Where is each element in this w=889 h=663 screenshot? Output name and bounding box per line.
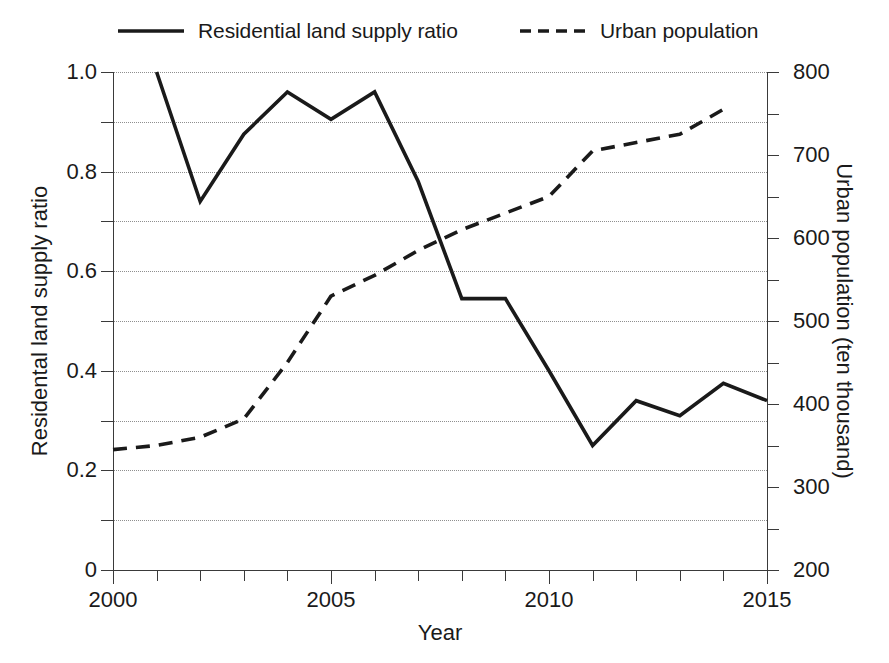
x-axis-tick-label: 2010: [525, 587, 574, 613]
y-axis-right-tick: [767, 155, 779, 156]
series-line-urban-population: [113, 109, 723, 449]
y-axis-right-tick: [767, 280, 779, 281]
y-axis-left-tick-label: 0.2: [66, 457, 97, 483]
y-axis-right-tick: [767, 570, 779, 571]
solid-line-swatch: [118, 24, 184, 38]
y-axis-left-tick-label: 0.8: [66, 159, 97, 185]
y-axis-left-tick: [101, 321, 113, 322]
series-line-residential-land-supply-ratio: [157, 72, 767, 446]
legend-label-residential-land-supply-ratio: Residential land supply ratio: [198, 18, 458, 44]
x-axis-tick: [287, 570, 288, 581]
y-axis-right-tick-label: 800: [793, 59, 830, 85]
x-axis-tick-label: 2000: [89, 587, 138, 613]
y-axis-right-tick: [767, 114, 779, 115]
y-axis-right-tick-label: 300: [793, 474, 830, 500]
x-axis-tick: [157, 570, 158, 581]
y-axis-right-tick-label: 600: [793, 225, 830, 251]
legend-item-residential-land-supply-ratio[interactable]: Residential land supply ratio: [118, 18, 458, 44]
x-axis-tick-label: 2005: [307, 587, 356, 613]
y-axis-right-tick: [767, 238, 779, 239]
y-axis-right-tick-label: 700: [793, 142, 830, 168]
x-axis-tick: [767, 570, 768, 584]
y-axis-right-title: Urban population (ten thousand): [830, 72, 858, 570]
y-axis-right-tick: [767, 529, 779, 530]
y-axis-right-tick: [767, 321, 779, 322]
series-canvas: [113, 72, 767, 570]
x-axis-tick: [593, 570, 594, 581]
y-axis-right-tick: [767, 404, 779, 405]
y-axis-left-tick: [101, 371, 113, 372]
x-axis-tick: [549, 570, 550, 584]
y-axis-right-tick: [767, 197, 779, 198]
y-axis-right-tick: [767, 363, 779, 364]
y-axis-left-tick: [101, 421, 113, 422]
y-axis-left-tick-label: 1.0: [66, 59, 97, 85]
y-axis-right-tick-label: 500: [793, 308, 830, 334]
y-axis-right-tick-label: 200: [793, 557, 830, 583]
y-axis-left-tick-label: 0.6: [66, 258, 97, 284]
x-axis-tick: [680, 570, 681, 581]
x-axis-tick: [636, 570, 637, 581]
y-axis-right-tick: [767, 487, 779, 488]
y-axis-left-tick-label: 0.4: [66, 358, 97, 384]
x-axis-tick: [375, 570, 376, 581]
plot-area: 00.20.40.60.81.0 200300400500600700800 2…: [113, 72, 767, 570]
x-axis-title: Year: [113, 620, 767, 646]
x-axis-tick: [418, 570, 419, 581]
legend-item-urban-population[interactable]: Urban population: [520, 18, 758, 44]
x-axis-tick-label: 2015: [743, 587, 792, 613]
y-axis-left-tick: [101, 172, 113, 173]
y-axis-left-title: Residental land supply ratio: [26, 72, 54, 570]
y-axis-left-tick: [101, 470, 113, 471]
y-axis-left-tick: [101, 221, 113, 222]
y-axis-left-tick: [101, 72, 113, 73]
y-axis-right-tick-label: 400: [793, 391, 830, 417]
legend-label-urban-population: Urban population: [600, 18, 758, 44]
x-axis-tick: [505, 570, 506, 581]
x-axis-tick: [113, 570, 114, 584]
x-axis-tick: [462, 570, 463, 581]
chart-legend: Residential land supply ratio Urban popu…: [0, 18, 889, 52]
y-axis-left-tick: [101, 122, 113, 123]
y-axis-left-tick: [101, 570, 113, 571]
x-axis-line: [113, 570, 767, 571]
y-axis-left-tick: [101, 271, 113, 272]
x-axis-tick: [200, 570, 201, 581]
y-axis-right-tick: [767, 72, 779, 73]
x-axis-tick: [331, 570, 332, 584]
dashed-line-swatch: [520, 24, 586, 38]
chart-figure: Residential land supply ratio Urban popu…: [0, 0, 889, 663]
x-axis-tick: [244, 570, 245, 581]
y-axis-left-tick: [101, 520, 113, 521]
x-axis-tick: [723, 570, 724, 581]
y-axis-left-tick-label: 0: [85, 557, 97, 583]
y-axis-right-tick: [767, 446, 779, 447]
